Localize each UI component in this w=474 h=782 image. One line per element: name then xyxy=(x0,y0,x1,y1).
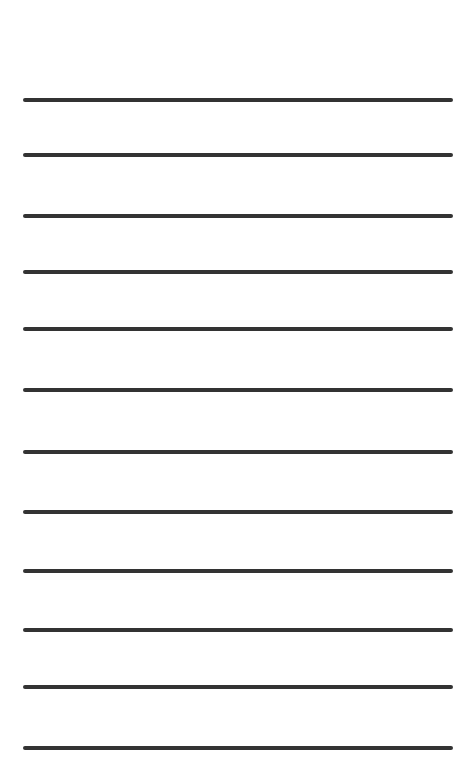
ruled-line xyxy=(23,450,453,454)
ruled-line xyxy=(23,153,453,157)
ruled-line xyxy=(23,270,453,274)
ruled-line xyxy=(23,746,453,750)
ruled-line xyxy=(23,98,453,102)
ruled-line xyxy=(23,628,453,632)
ruled-line xyxy=(23,510,453,514)
ruled-line xyxy=(23,388,453,392)
ruled-line xyxy=(23,327,453,331)
ruled-line xyxy=(23,214,453,218)
ruled-line xyxy=(23,569,453,573)
lined-paper-page xyxy=(0,0,474,782)
ruled-line xyxy=(23,685,453,689)
